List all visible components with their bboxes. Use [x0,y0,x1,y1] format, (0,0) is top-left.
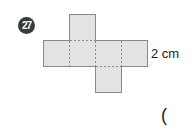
dimension-label: 2 cm [151,46,179,61]
net-face-top [70,15,96,41]
net-face-bottom [96,67,122,93]
answer-parenthesis: ( [161,105,167,126]
